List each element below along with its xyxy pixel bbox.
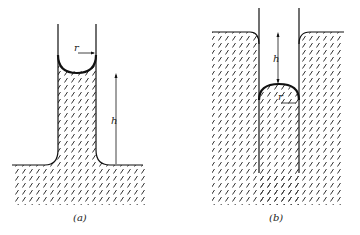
height-label-a: h [111, 115, 117, 126]
meniscus-a [58, 55, 96, 73]
caption-a: (a) [73, 212, 87, 223]
panel-b: r h [212, 8, 344, 205]
liquid-b-outside-right [299, 32, 344, 205]
liquid-a [14, 65, 145, 205]
height-label-b: h [273, 53, 279, 64]
capillary-diagram: r h r h [0, 0, 360, 235]
caption-b: (b) [269, 212, 283, 223]
radius-label-a: r [74, 42, 80, 53]
liquid-b-outside [212, 32, 259, 205]
panel-a: r h [12, 24, 145, 205]
tube-right-wall-a [96, 24, 143, 165]
tube-left-wall-a [12, 24, 58, 165]
